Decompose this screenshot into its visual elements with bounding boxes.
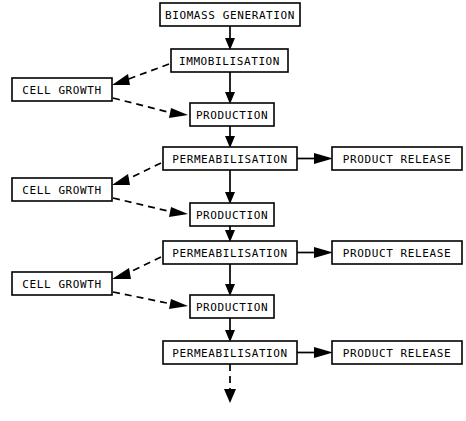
node-label-production-3: PRODUCTION xyxy=(196,301,268,314)
node-label-cell-growth-1: CELL GROWTH xyxy=(22,84,101,97)
node-label-immobilisation: IMMOBILISATION xyxy=(179,55,280,68)
edge-immobilisation-to-cell-growth-1 xyxy=(112,64,169,85)
node-label-permeabilisation-2: PERMEABILISATION xyxy=(172,247,288,260)
node-label-production-1: PRODUCTION xyxy=(196,109,268,122)
node-product-release-1[interactable]: PRODUCT RELEASE xyxy=(332,147,462,170)
node-cell-growth-1[interactable]: CELL GROWTH xyxy=(12,78,112,101)
node-production-2[interactable]: PRODUCTION xyxy=(190,203,274,226)
edge-immobilisation-to-production-1 xyxy=(225,72,235,104)
node-label-cell-growth-2: CELL GROWTH xyxy=(22,184,101,197)
node-label-permeabilisation-3: PERMEABILISATION xyxy=(172,347,288,360)
edge-cell-growth-1-to-production-1 xyxy=(113,98,188,118)
edge-production-1-to-permeabilisation-1 xyxy=(225,126,235,148)
node-product-release-2[interactable]: PRODUCT RELEASE xyxy=(332,241,462,264)
edge-production-3-to-permeabilisation-3 xyxy=(225,318,235,342)
node-cell-growth-3[interactable]: CELL GROWTH xyxy=(12,272,112,295)
node-label-permeabilisation-1: PERMEABILISATION xyxy=(172,153,288,166)
flowchart-diagram: BIOMASS GENERATION IMMOBILISATION CELL G… xyxy=(0,0,466,421)
edge-permeabilisation-2-to-cell-growth-3 xyxy=(112,257,161,279)
node-permeabilisation-2[interactable]: PERMEABILISATION xyxy=(163,241,297,264)
edge-permeabilisation-3-continuation xyxy=(224,364,236,403)
edge-permeabilisation-1-to-cell-growth-2 xyxy=(112,163,161,185)
node-label-production-2: PRODUCTION xyxy=(196,209,268,222)
node-product-release-3[interactable]: PRODUCT RELEASE xyxy=(332,341,462,364)
edge-biomass-to-immobilisation xyxy=(225,26,235,50)
node-production-3[interactable]: PRODUCTION xyxy=(190,295,274,318)
edge-permeabilisation-3-to-product-release-3 xyxy=(297,347,333,358)
node-production-1[interactable]: PRODUCTION xyxy=(190,103,274,126)
node-label-product-release-2: PRODUCT RELEASE xyxy=(343,247,451,260)
edge-permeabilisation-1-to-product-release-1 xyxy=(297,153,333,164)
node-biomass-generation[interactable]: BIOMASS GENERATION xyxy=(160,3,300,26)
node-label-product-release-3: PRODUCT RELEASE xyxy=(343,347,451,360)
edge-production-2-to-permeabilisation-2 xyxy=(225,226,235,242)
node-label-biomass-generation: BIOMASS GENERATION xyxy=(165,9,295,22)
node-permeabilisation-3[interactable]: PERMEABILISATION xyxy=(163,341,297,364)
edge-permeabilisation-2-to-production-3 xyxy=(225,264,235,296)
node-layer: BIOMASS GENERATION IMMOBILISATION CELL G… xyxy=(12,3,462,364)
node-immobilisation[interactable]: IMMOBILISATION xyxy=(171,49,288,72)
node-permeabilisation-1[interactable]: PERMEABILISATION xyxy=(163,147,297,170)
edge-permeabilisation-2-to-product-release-2 xyxy=(297,247,333,258)
edge-permeabilisation-1-to-production-2 xyxy=(225,170,235,204)
flowchart-canvas: BIOMASS GENERATION IMMOBILISATION CELL G… xyxy=(0,0,466,421)
edge-cell-growth-3-to-production-3 xyxy=(113,292,188,309)
node-cell-growth-2[interactable]: CELL GROWTH xyxy=(12,178,112,201)
node-label-product-release-1: PRODUCT RELEASE xyxy=(343,153,451,166)
node-label-cell-growth-3: CELL GROWTH xyxy=(22,278,101,291)
edge-cell-growth-2-to-production-2 xyxy=(113,198,188,217)
